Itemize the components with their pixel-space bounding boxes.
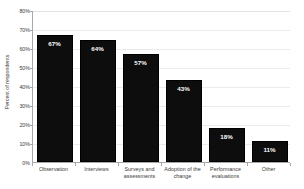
plot-area: 67%64%57%43%18%11% [32,11,290,163]
bar[interactable]: 43% [166,80,202,162]
bar-value-label: 18% [210,133,244,140]
x-axis-tickmark [161,163,162,166]
bar[interactable]: 57% [123,54,159,162]
x-axis-category-label: Observation [32,166,75,173]
x-axis-tickmark [290,163,291,166]
bar[interactable]: 67% [37,35,73,162]
y-axis-tick-label: 30% [19,103,30,109]
x-axis-category-label: Interviews [75,166,118,173]
y-axis-tick-label: 60% [19,46,30,52]
x-axis-category-label: Performance evaluations [204,166,247,179]
x-axis-tickmark [75,163,76,166]
y-axis-tick-label: 10% [19,141,30,147]
bar-value-label: 64% [81,45,115,52]
bar-value-label: 11% [253,146,287,153]
bar-value-label: 43% [167,85,201,92]
bar-slot: 57% [119,11,162,162]
bar[interactable]: 18% [209,128,245,162]
bar-slot: 18% [205,11,248,162]
y-axis-tick-labels: 0%10%20%30%40%50%60%70%80% [12,0,31,189]
bar-chart: Percent of respondents 0%10%20%30%40%50%… [0,0,304,189]
bar-slot: 64% [76,11,119,162]
y-axis-tick-label: 20% [19,122,30,128]
bar-slot: 43% [162,11,205,162]
y-axis-tick-label: 0% [22,160,30,166]
x-axis-tickmark [118,163,119,166]
y-axis-title-text: Percent of respondents [4,54,10,109]
y-axis-tick-label: 70% [19,27,30,33]
x-axis-category-labels: ObservationInterviewsSurveys and assessm… [32,166,290,189]
x-axis-tickmark [32,163,33,166]
x-axis-tickmark [247,163,248,166]
y-axis-tick-label: 50% [19,65,30,71]
bars-layer: 67%64%57%43%18%11% [33,11,290,162]
bar-value-label: 57% [124,59,158,66]
bar-value-label: 67% [38,40,72,47]
x-axis-category-label: Surveys and assessments [118,166,161,179]
bar[interactable]: 11% [252,141,288,162]
bar-slot: 67% [33,11,76,162]
x-axis-category-label: Adoption of the change [161,166,204,179]
x-axis-category-label: Other [247,166,290,173]
y-axis-tick-label: 80% [19,8,30,14]
bar[interactable]: 64% [80,40,116,162]
y-axis-tick-label: 40% [19,84,30,90]
bar-slot: 11% [248,11,291,162]
x-axis-tickmark [204,163,205,166]
